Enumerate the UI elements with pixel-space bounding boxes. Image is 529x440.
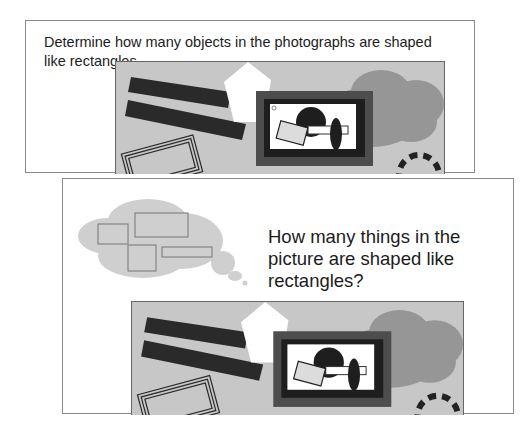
shapes-picture-top: [115, 61, 445, 174]
bottom-question-card: How many things in the picture are shape…: [62, 178, 514, 414]
top-question-card: Determine how many objects in the photog…: [25, 20, 475, 173]
thought-bubble: [73, 191, 248, 291]
shapes-picture-bottom: [131, 301, 464, 415]
question-text-bottom: How many things in the picture are shape…: [268, 226, 478, 292]
